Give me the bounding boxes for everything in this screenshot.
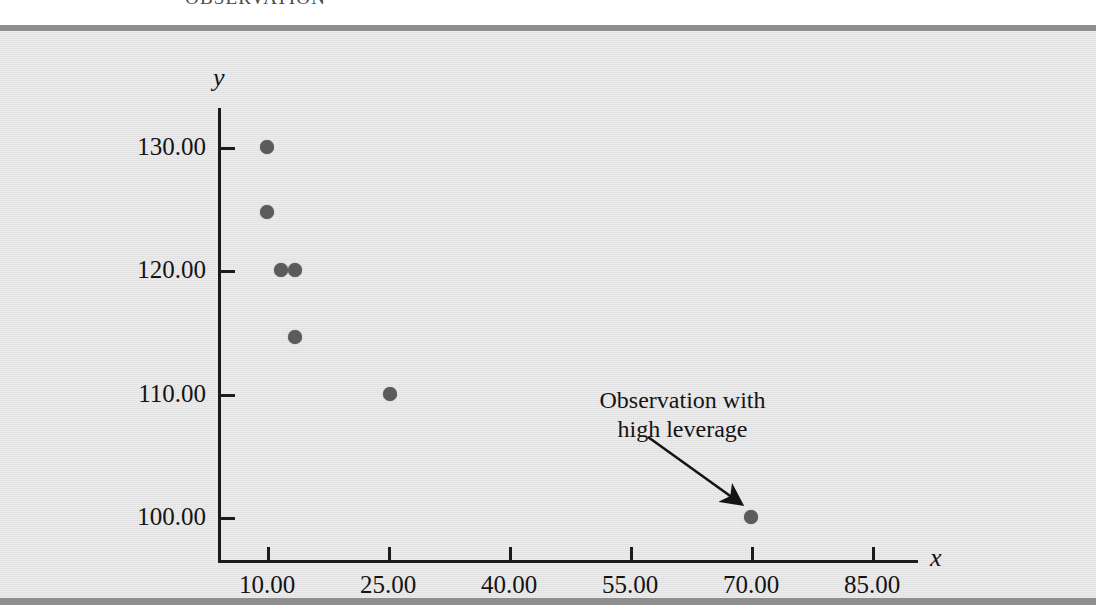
- data-point-5: [383, 387, 397, 401]
- figure-root: OBSERVATION y x 130.00 120.00 110.00: [0, 0, 1120, 615]
- y-tick-100: [221, 517, 235, 520]
- y-ticklabel-120: 120.00: [137, 256, 206, 284]
- scatter-plot: y x 130.00 120.00 110.00 100.00 10.00: [0, 31, 1096, 598]
- x-ticklabel-40: 40.00: [481, 571, 537, 599]
- x-ticklabel-70: 70.00: [723, 571, 779, 599]
- x-ticklabel-10: 10.00: [239, 571, 295, 599]
- x-axis-title: x: [930, 543, 942, 573]
- y-tick-130: [221, 147, 235, 150]
- y-tick-110: [221, 394, 235, 397]
- x-ticklabel-25: 25.00: [360, 571, 416, 599]
- data-point-2: [274, 263, 288, 277]
- y-tick-120: [221, 270, 235, 273]
- y-ticklabel-130: 130.00: [137, 133, 206, 161]
- x-ticklabel-55: 55.00: [602, 571, 658, 599]
- y-axis-line: [218, 108, 221, 563]
- x-tick-10: [267, 547, 270, 561]
- cropped-caption-text: OBSERVATION: [185, 0, 326, 9]
- x-ticklabel-85: 85.00: [844, 571, 900, 599]
- cropped-caption-strip: OBSERVATION: [0, 0, 1120, 22]
- y-axis-title: y: [213, 63, 225, 93]
- scanned-figure-plate: y x 130.00 120.00 110.00 100.00 10.00: [0, 25, 1096, 605]
- x-tick-85: [872, 547, 875, 561]
- data-point-3: [288, 263, 302, 277]
- x-tick-40: [509, 547, 512, 561]
- data-point-1: [260, 205, 274, 219]
- x-tick-25: [388, 547, 391, 561]
- y-ticklabel-110: 110.00: [138, 380, 206, 408]
- annotation-line-1: Observation with: [565, 386, 800, 415]
- y-ticklabel-100: 100.00: [137, 503, 206, 531]
- x-tick-55: [630, 547, 633, 561]
- data-point-4: [288, 330, 302, 344]
- data-point-0: [260, 140, 274, 154]
- plate-bottom-rule: [0, 598, 1096, 605]
- x-axis-line: [218, 560, 918, 563]
- x-tick-70: [751, 547, 754, 561]
- annotation-arrow-icon: [640, 431, 780, 521]
